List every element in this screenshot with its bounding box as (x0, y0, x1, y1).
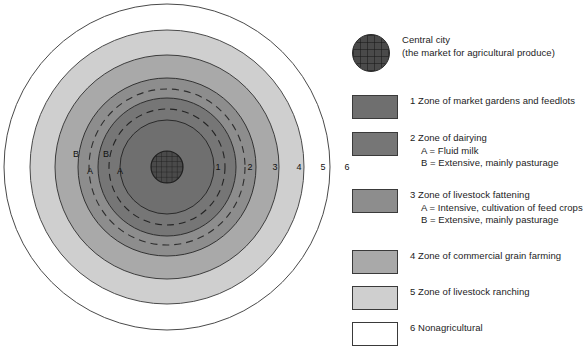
legend-swatch-zone-2 (352, 132, 398, 156)
legend-sub-zone-2-a: A = Fluid milk (410, 145, 559, 158)
legend: Central city (the market for agricultura… (352, 34, 566, 334)
ring-label-5: 5 (320, 162, 325, 172)
legend-label-zone-4: 4 Zone of commercial grain farming (410, 250, 561, 263)
legend-title-zone-3: 3 Zone of livestock fattening (410, 189, 530, 200)
ring-label-1: 1 (215, 162, 220, 172)
legend-swatch-zone-5 (352, 286, 398, 310)
legend-label-zone-3: 3 Zone of livestock fattening A = Intens… (410, 189, 583, 227)
legend-swatch-zone-6 (352, 322, 398, 346)
legend-swatch-zone-4 (352, 250, 398, 274)
ring-label-6: 6 (344, 162, 349, 172)
legend-swatch-zone-1 (352, 95, 398, 119)
legend-title-zone-2: 2 Zone of dairying (410, 132, 487, 143)
legend-zone-6: 6 Nonagricultural (352, 322, 483, 346)
legend-zone-4: 4 Zone of commercial grain farming (352, 250, 561, 274)
legend-title-zone-5: 5 Zone of livestock ranching (410, 286, 530, 297)
sublabel-zone3-A: A (87, 166, 93, 176)
legend-sub-zone-2-b: B = Extensive, mainly pasturage (410, 157, 559, 170)
legend-label-central-city: Central city (the market for agricultura… (402, 34, 555, 59)
city-grid-icon (353, 35, 389, 71)
legend-title-zone-6: 6 Nonagricultural (410, 322, 483, 333)
legend-label-zone-2: 2 Zone of dairying A = Fluid milk B = Ex… (410, 132, 559, 170)
legend-label-zone-5: 5 Zone of livestock ranching (410, 286, 530, 299)
legend-label-zone-6: 6 Nonagricultural (410, 322, 483, 335)
legend-sub-zone-3-b: B = Extensive, mainly pasturage (410, 214, 583, 227)
legend-zone-5: 5 Zone of livestock ranching (352, 286, 530, 310)
ring-label-2: 2 (247, 162, 252, 172)
legend-swatch-central-city (352, 34, 390, 72)
sublabel-zone2-A: A (117, 166, 123, 176)
legend-zone-2: 2 Zone of dairying A = Fluid milk B = Ex… (352, 132, 559, 170)
legend-label-zone-1: 1 Zone of market gardens and feedlots (410, 95, 575, 108)
legend-title-zone-4: 4 Zone of commercial grain farming (410, 250, 561, 261)
ring-label-3: 3 (272, 162, 277, 172)
legend-title-zone-1: 1 Zone of market gardens and feedlots (410, 95, 575, 106)
sublabel-zone3-B: B (73, 149, 79, 159)
legend-title-central-city: Central city (402, 34, 450, 45)
legend-sub-central-city-0: (the market for agricultural produce) (402, 47, 555, 60)
concentric-ring-diagram: 1 2 3 4 5 6 B A B A (0, 0, 350, 341)
legend-zone-1: 1 Zone of market gardens and feedlots (352, 95, 575, 119)
legend-sub-zone-3-a: A = Intensive, cultivation of feed crops (410, 202, 583, 215)
sublabel-zone2-B: B (103, 149, 109, 159)
legend-zone-3: 3 Zone of livestock fattening A = Intens… (352, 189, 583, 227)
legend-swatch-zone-3 (352, 189, 398, 213)
central-city-icon (151, 151, 183, 183)
legend-central-city: Central city (the market for agricultura… (352, 34, 555, 72)
ring-label-4: 4 (296, 162, 301, 172)
